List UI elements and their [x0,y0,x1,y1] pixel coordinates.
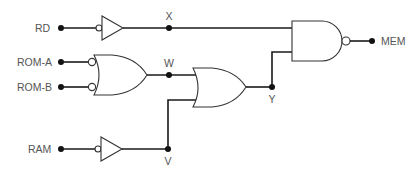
buffer-gate-ram [101,137,122,161]
or-gate-wv [193,68,246,107]
node-x [166,25,172,31]
input-label-rd: RD [35,22,51,34]
nand-gate-mem [292,21,342,61]
node-label-y: Y [268,93,275,105]
or-gate-rom [94,55,147,95]
logic-circuit-diagram: RD X ROM-A ROM-B W RAM V Y MEM [0,0,420,178]
input-label-rom-a: ROM-A [17,56,52,68]
inverter-bubble-rom-b [88,83,95,90]
buffer-gate-rd [102,16,123,40]
node-label-w: W [164,57,174,69]
node-label-v: V [164,155,171,167]
node-label-x: X [165,10,172,22]
wire-y-to-nand [272,52,292,87]
inverter-bubble-rd [96,25,102,31]
nand-output-bubble [342,37,350,45]
output-terminal-mem [369,38,375,44]
inverter-bubble-ram [95,146,101,152]
input-label-rom-b: ROM-B [17,81,52,93]
node-w [166,72,172,78]
wire-v-to-or [168,100,196,149]
input-label-ram: RAM [28,143,51,155]
output-label-mem: MEM [381,35,406,47]
inverter-bubble-rom-a [88,58,95,65]
